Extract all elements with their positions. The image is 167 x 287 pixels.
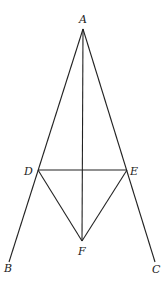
label-b: B bbox=[3, 262, 12, 275]
segment-af bbox=[82, 29, 83, 241]
segment-ab bbox=[9, 29, 83, 262]
segment-df bbox=[38, 170, 82, 241]
label-a: A bbox=[78, 13, 87, 26]
label-f: F bbox=[77, 245, 86, 258]
segment-ac bbox=[83, 29, 155, 262]
segment-ef bbox=[82, 170, 127, 241]
geometry-diagram: A D E F B C bbox=[0, 0, 167, 287]
label-e: E bbox=[129, 165, 138, 178]
label-d: D bbox=[23, 165, 33, 178]
label-c: C bbox=[152, 263, 161, 276]
